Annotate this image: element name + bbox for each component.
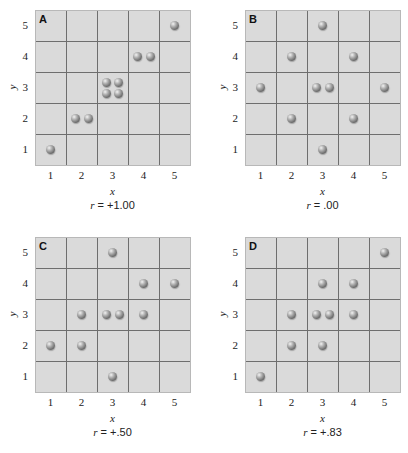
data-point <box>312 83 321 92</box>
x-tick-label: 3 <box>103 396 123 408</box>
y-tick-label: 4 <box>16 277 28 289</box>
grid-line-horizontal <box>246 103 400 104</box>
data-point <box>256 83 265 92</box>
data-point <box>287 114 296 123</box>
grid-line-vertical <box>276 11 277 165</box>
y-tick-label: 5 <box>226 19 238 31</box>
x-tick-label: 4 <box>344 396 364 408</box>
x-tick-label: 1 <box>251 169 271 181</box>
y-tick-label: 4 <box>226 277 238 289</box>
y-tick-label: 3 <box>226 81 238 93</box>
panel-letter: C <box>39 240 47 252</box>
y-tick-label: 4 <box>226 50 238 62</box>
grid-line-horizontal <box>36 134 190 135</box>
scatter-panel-c: y 12345 C 12345 x r = +.50 <box>0 227 204 453</box>
y-tick-label: 2 <box>226 112 238 124</box>
x-tick-label: 5 <box>165 169 185 181</box>
x-tick-label: 2 <box>282 396 302 408</box>
y-tick-label: 2 <box>16 339 28 351</box>
grid-line-horizontal <box>246 268 400 269</box>
panel-letter: A <box>39 13 47 25</box>
correlation-label: r = +.83 <box>263 426 383 438</box>
grid-line-vertical <box>159 11 160 165</box>
plot-grid: C <box>35 237 191 393</box>
x-axis-label: x <box>313 412 333 424</box>
data-point <box>102 78 111 87</box>
grid-line-vertical <box>97 11 98 165</box>
data-point <box>325 83 334 92</box>
x-tick-label: 1 <box>41 169 61 181</box>
y-tick-label: 4 <box>16 50 28 62</box>
grid-line-vertical <box>369 238 370 392</box>
y-tick-label: 5 <box>16 246 28 258</box>
y-tick-label: 3 <box>16 81 28 93</box>
data-point <box>46 145 55 154</box>
y-tick-label: 3 <box>16 308 28 320</box>
grid-line-vertical <box>159 238 160 392</box>
y-tick-label: 5 <box>16 19 28 31</box>
r-value: = +.83 <box>308 426 342 438</box>
x-tick-label: 3 <box>103 169 123 181</box>
grid-line-horizontal <box>246 330 400 331</box>
data-point <box>108 248 117 257</box>
data-point <box>115 310 124 319</box>
grid-line-horizontal <box>36 41 190 42</box>
data-point <box>139 310 148 319</box>
grid-line-horizontal <box>246 41 400 42</box>
panel-letter: D <box>249 240 257 252</box>
grid-line-horizontal <box>36 72 190 73</box>
data-point <box>349 279 358 288</box>
x-axis-label: x <box>103 185 123 197</box>
x-tick-label: 5 <box>375 396 395 408</box>
grid-line-vertical <box>369 11 370 165</box>
data-point <box>133 52 142 61</box>
x-tick-label: 1 <box>251 396 271 408</box>
scatter-panel-d: y 12345 D 12345 x r = +.83 <box>210 227 408 453</box>
plot-grid: A <box>35 10 191 166</box>
scatter-panel-b: y 12345 B 12345 x r = .00 <box>210 0 408 226</box>
data-point <box>71 114 80 123</box>
x-tick-label: 4 <box>134 169 154 181</box>
x-tick-label: 2 <box>72 396 92 408</box>
grid-line-horizontal <box>36 330 190 331</box>
data-point <box>325 310 334 319</box>
data-point <box>170 21 179 30</box>
grid-line-horizontal <box>246 72 400 73</box>
data-point <box>77 310 86 319</box>
r-value: = +1.00 <box>94 199 134 211</box>
panel-letter: B <box>249 13 257 25</box>
data-point <box>256 372 265 381</box>
y-tick-label: 1 <box>16 143 28 155</box>
grid-line-horizontal <box>36 268 190 269</box>
data-point <box>349 52 358 61</box>
grid-line-vertical <box>307 11 308 165</box>
data-point <box>318 21 327 30</box>
data-point <box>102 89 111 98</box>
r-value: = .00 <box>311 199 339 211</box>
r-value: = +.50 <box>98 426 132 438</box>
grid-line-vertical <box>97 238 98 392</box>
y-tick-label: 1 <box>226 370 238 382</box>
correlation-label: r = +.50 <box>53 426 173 438</box>
data-point <box>108 372 117 381</box>
y-tick-label: 2 <box>16 112 28 124</box>
grid-line-horizontal <box>246 361 400 362</box>
grid-line-vertical <box>128 238 129 392</box>
grid-line-vertical <box>307 238 308 392</box>
y-tick-label: 3 <box>226 308 238 320</box>
grid-line-vertical <box>66 238 67 392</box>
data-point <box>146 52 155 61</box>
data-point <box>287 310 296 319</box>
data-point <box>287 52 296 61</box>
grid-line-vertical <box>338 238 339 392</box>
x-tick-label: 2 <box>282 169 302 181</box>
y-tick-label: 1 <box>226 143 238 155</box>
y-tick-label: 1 <box>16 370 28 382</box>
data-point <box>318 341 327 350</box>
data-point <box>380 83 389 92</box>
grid-line-vertical <box>338 11 339 165</box>
grid-line-vertical <box>66 11 67 165</box>
grid-line-horizontal <box>36 361 190 362</box>
correlation-label: r = +1.00 <box>53 199 173 211</box>
x-tick-label: 4 <box>344 169 364 181</box>
